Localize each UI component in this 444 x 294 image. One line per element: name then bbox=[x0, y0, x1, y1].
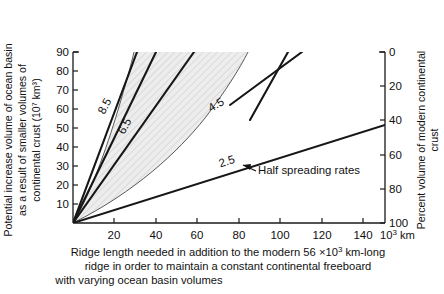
right-ticklabel-100: 100 bbox=[389, 217, 408, 229]
right-ticklabel-40: 40 bbox=[389, 114, 402, 126]
right-ticklabel-20: 20 bbox=[389, 80, 402, 92]
left-ticklabel-20: 20 bbox=[56, 179, 69, 191]
series-label-2-5: 2.5 bbox=[217, 152, 236, 169]
figure-container: 8.5 6.5 4.5 2.5 Half spreading rates 90 … bbox=[0, 0, 444, 294]
right-axis-title-line2: crust bbox=[428, 128, 440, 151]
bottom-ticklabel-60: 60 bbox=[191, 229, 204, 241]
left-ticklabel-10: 10 bbox=[56, 198, 69, 210]
left-ticklabel-30: 30 bbox=[56, 160, 69, 172]
left-axis-ticks bbox=[73, 52, 78, 204]
right-ticklabel-60: 60 bbox=[389, 149, 402, 161]
right-ticklabel-80: 80 bbox=[389, 183, 402, 195]
annotation-label: Half spreading rates bbox=[258, 164, 360, 176]
shaded-band-fill bbox=[73, 52, 248, 223]
bottom-ticklabel-120: 120 bbox=[312, 229, 331, 241]
left-axis-title-line3: continental crust (10⁷ km³) bbox=[30, 78, 42, 201]
series-label-8-5: 8.5 bbox=[95, 96, 114, 116]
left-ticklabel-90: 90 bbox=[56, 46, 69, 58]
left-ticklabel-70: 70 bbox=[56, 84, 69, 96]
caption-line-1: Ridge length needed in addition to the m… bbox=[71, 245, 386, 258]
right-axis-title-line1: Percent volume of modern continental bbox=[415, 51, 427, 229]
bottom-ticklabel-140: 140 bbox=[353, 229, 372, 241]
x-axis-unit-label: 103 km bbox=[380, 228, 415, 241]
left-ticklabel-80: 80 bbox=[56, 65, 69, 77]
bottom-ticklabel-80: 80 bbox=[233, 229, 246, 241]
right-axis-tick-labels: 0 20 40 60 80 100 bbox=[389, 46, 408, 229]
bottom-ticklabel-100: 100 bbox=[270, 229, 289, 241]
left-ticklabel-50: 50 bbox=[56, 122, 69, 134]
chart-svg: 8.5 6.5 4.5 2.5 Half spreading rates 90 … bbox=[0, 0, 444, 294]
left-ticklabel-40: 40 bbox=[56, 141, 69, 153]
right-ticklabel-0: 0 bbox=[389, 46, 395, 58]
caption-line-3: with varying ocean basin volumes bbox=[54, 274, 223, 286]
bottom-axis-tick-labels: 20 40 60 80 100 120 140 bbox=[108, 229, 373, 241]
right-axis-ticks bbox=[380, 52, 385, 223]
bottom-ticklabel-40: 40 bbox=[150, 229, 163, 241]
caption-line-2: ridge in order to maintain a constant co… bbox=[85, 260, 372, 272]
bottom-ticklabel-20: 20 bbox=[108, 229, 121, 241]
left-axis-title-line1: Potential increase volume of ocean basin bbox=[2, 43, 14, 236]
bottom-axis-ticks bbox=[114, 218, 363, 223]
left-axis-title-line2: as a result of smaller volumes of bbox=[16, 64, 28, 216]
left-axis-tick-labels: 90 80 70 60 50 40 30 20 10 bbox=[56, 46, 69, 210]
shaded-band-group bbox=[73, 52, 248, 223]
left-ticklabel-60: 60 bbox=[56, 103, 69, 115]
